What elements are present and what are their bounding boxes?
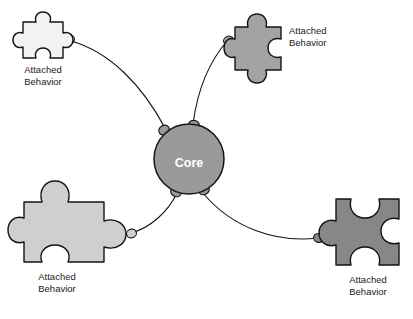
attached-behavior-bottom-right-label-line1: Attached bbox=[349, 274, 387, 285]
attached-behavior-top-left[interactable]: Attached Behavior bbox=[13, 12, 76, 87]
connector-core-to-top-right bbox=[193, 40, 228, 124]
attached-behavior-top-right-label-line2: Behavior bbox=[289, 37, 327, 48]
attached-behavior-top-left-label-line2: Behavior bbox=[24, 76, 62, 87]
attached-behavior-bottom-right[interactable]: Attached Behavior bbox=[313, 199, 399, 297]
attached-behavior-bottom-left[interactable]: Attached Behavior bbox=[8, 181, 137, 294]
attached-behavior-bottom-right-label-line2: Behavior bbox=[349, 286, 387, 297]
puzzle-piece-top-right[interactable] bbox=[224, 14, 281, 83]
diagram-svg: Core Attached Behavior Attached Behavior… bbox=[0, 0, 413, 319]
puzzle-piece-top-left[interactable] bbox=[13, 12, 73, 58]
connector-nub-bottom-left bbox=[126, 228, 138, 238]
core-node[interactable]: Core bbox=[154, 119, 224, 198]
attached-behavior-top-right-label-line1: Attached bbox=[289, 25, 327, 36]
connector-core-to-top-left bbox=[71, 41, 165, 128]
connector-core-to-bottom-left bbox=[131, 193, 177, 233]
attached-behavior-bottom-left-label-line1: Attached bbox=[38, 271, 76, 282]
puzzle-piece-bottom-left[interactable] bbox=[8, 181, 126, 262]
attached-behavior-top-left-label-line1: Attached bbox=[24, 64, 62, 75]
puzzle-piece-bottom-right[interactable] bbox=[319, 199, 399, 265]
connector-core-to-bottom-right bbox=[203, 193, 318, 239]
core-label: Core bbox=[175, 156, 204, 170]
puzzle-diagram-canvas: Core Attached Behavior Attached Behavior… bbox=[0, 0, 413, 319]
attached-behavior-bottom-left-label-line2: Behavior bbox=[38, 283, 76, 294]
attached-behavior-top-right[interactable]: Attached Behavior bbox=[222, 14, 326, 83]
